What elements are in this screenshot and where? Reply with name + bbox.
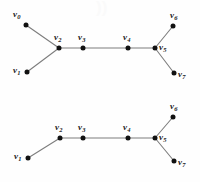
node-label-subscript: 2: [59, 126, 62, 133]
graph-top-edges: [26, 25, 174, 73]
graph-node-v4: [126, 46, 131, 51]
graph-bottom-edges: [28, 117, 174, 161]
node-label-v4: v4: [123, 33, 130, 42]
graph-node-v0: [24, 23, 29, 28]
node-label-v5: v5: [159, 43, 166, 52]
node-label-v4: v4: [123, 123, 130, 132]
node-label-subscript: 3: [82, 36, 85, 43]
graph-bottom-nodes: [26, 115, 177, 164]
node-label-v2: v2: [55, 123, 62, 132]
node-label-v5: v5: [159, 133, 166, 142]
node-label-v7: v7: [178, 70, 185, 79]
node-label-v3: v3: [78, 123, 85, 132]
node-label-v7: v7: [178, 158, 185, 167]
graph-node-v5: [153, 46, 158, 51]
node-label-v0: v0: [13, 10, 20, 19]
node-label-subscript: 1: [17, 69, 20, 76]
node-label-subscript: 7: [182, 161, 185, 168]
node-label-subscript: 4: [127, 36, 130, 43]
graph-node-v2: [57, 46, 62, 51]
node-label-subscript: 5: [163, 46, 166, 53]
node-label-subscript: 2: [58, 36, 61, 43]
graph-node-v1: [26, 156, 31, 161]
node-label-v2: v2: [54, 33, 61, 42]
node-label-subscript: 6: [174, 14, 177, 21]
node-label-v6: v6: [170, 11, 177, 20]
node-label-subscript: 7: [182, 73, 185, 80]
graph-node-v6: [171, 24, 176, 29]
node-label-v1: v1: [13, 66, 20, 75]
graph-edge: [28, 138, 60, 158]
graph-canvas: [0, 0, 200, 182]
graph-node-v3: [81, 136, 86, 141]
graph-node-v2: [58, 136, 63, 141]
node-label-subscript: 3: [82, 126, 85, 133]
nodes-layer: [24, 23, 177, 164]
graph-node-v1: [25, 70, 30, 75]
graph-node-v6: [171, 115, 176, 120]
graph-node-v5: [153, 136, 158, 141]
edges-layer: [26, 25, 174, 161]
node-label-subscript: 4: [127, 126, 130, 133]
node-label-subscript: 0: [17, 13, 20, 20]
node-label-subscript: 1: [18, 155, 21, 162]
node-label-v1: v1: [14, 152, 21, 161]
figure-root: )) v0v1v2v3v4v5v6v7v1v2v3v4v5v6v7: [0, 0, 200, 182]
graph-node-v7: [172, 71, 177, 76]
node-label-subscript: 5: [163, 136, 166, 143]
node-label-v6: v6: [170, 102, 177, 111]
graph-node-v3: [81, 46, 86, 51]
graph-edge: [27, 48, 59, 72]
graph-node-v7: [172, 159, 177, 164]
node-label-v3: v3: [78, 33, 85, 42]
graph-node-v4: [126, 136, 131, 141]
graph-top-nodes: [24, 23, 177, 76]
node-label-subscript: 6: [174, 105, 177, 112]
